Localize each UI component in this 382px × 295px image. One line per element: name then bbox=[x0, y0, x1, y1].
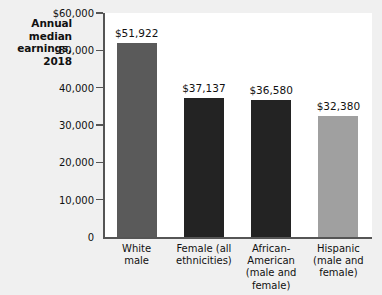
y-axis-tick bbox=[96, 50, 103, 52]
y-axis-tick bbox=[96, 124, 103, 126]
category-label-line-1: Hispanic bbox=[302, 243, 375, 255]
y-axis-tick bbox=[96, 12, 103, 14]
y-axis-tick bbox=[96, 87, 103, 89]
y-axis-tick-label: 10,000 bbox=[38, 194, 94, 205]
y-axis-tick bbox=[96, 199, 103, 201]
category-label-line-2: American bbox=[235, 255, 308, 267]
category-label: Female (allethnicities) bbox=[167, 243, 240, 267]
category-label: Hispanic(male andfemale) bbox=[302, 243, 375, 280]
category-label-line-1: African- bbox=[235, 243, 308, 255]
category-label-line-3: female) bbox=[302, 267, 375, 279]
category-label-line-1: Female (all bbox=[167, 243, 240, 255]
category-label-line-2: male bbox=[100, 255, 173, 267]
category-label-line-2: (male and bbox=[302, 255, 375, 267]
y-axis-tick-label: 0 bbox=[38, 232, 94, 243]
category-label: African-American(male andfemale) bbox=[235, 243, 308, 292]
y-axis-tick-label: 20,000 bbox=[38, 157, 94, 168]
y-axis-tick-label: 40,000 bbox=[38, 82, 94, 93]
x-axis-category-labels: WhitemaleFemale (allethnicities)African-… bbox=[103, 0, 372, 295]
y-axis-tick bbox=[96, 162, 103, 164]
y-axis-tick-label: 30,000 bbox=[38, 120, 94, 131]
category-label-line-2: ethnicities) bbox=[167, 255, 240, 267]
y-axis-labels: $60,00050,00040,00030,00020,00010,0000 bbox=[36, 0, 94, 295]
y-axis-tick-label: 50,000 bbox=[38, 45, 94, 56]
category-label-line-3: (male and bbox=[235, 267, 308, 279]
category-label-line-4: female) bbox=[235, 280, 308, 292]
chart-figure: Annual median earnings, 2018 $60,00050,0… bbox=[0, 0, 382, 295]
category-label: Whitemale bbox=[100, 243, 173, 267]
category-label-line-1: White bbox=[100, 243, 173, 255]
y-axis-tick-label: $60,000 bbox=[38, 8, 94, 19]
